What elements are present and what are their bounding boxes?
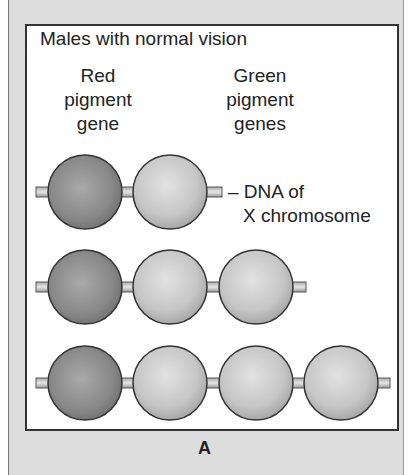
chromosome-row-2 — [36, 250, 306, 324]
chromosome-diagram — [0, 0, 415, 475]
red-pigment-gene — [48, 155, 122, 229]
green-pigment-gene — [133, 346, 207, 420]
panel-letter: A — [198, 438, 211, 459]
chromosome-row-3 — [36, 346, 390, 420]
red-pigment-gene — [48, 346, 122, 420]
green-pigment-gene — [304, 346, 378, 420]
green-pigment-gene — [133, 250, 207, 324]
red-pigment-gene — [48, 250, 122, 324]
green-pigment-gene — [219, 346, 293, 420]
chromosome-row-1 — [36, 155, 222, 229]
green-pigment-gene — [219, 250, 293, 324]
green-pigment-gene — [133, 155, 207, 229]
